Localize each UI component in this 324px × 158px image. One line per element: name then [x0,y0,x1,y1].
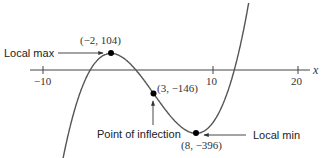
inflection-label: Point of inflection [97,128,181,140]
tick-label-neg10: −10 [34,75,52,87]
tick-label-20: 20 [291,75,303,87]
local-min-label: Local min [253,129,300,141]
local-min-dot [193,130,199,136]
x-axis-label: x [312,63,319,77]
tick-label-10: 10 [206,75,218,87]
inflection-dot [151,90,157,96]
local-max-dot [108,50,114,56]
local-max-label: Local max [4,47,55,59]
function-graph: x −10 10 20 (−2, 104) (3, −146) (8, −396… [0,0,324,158]
local-max-coords: (−2, 104) [80,34,121,47]
inflection-coords: (3, −146) [157,82,198,95]
local-min-coords: (8, −396) [181,139,222,152]
